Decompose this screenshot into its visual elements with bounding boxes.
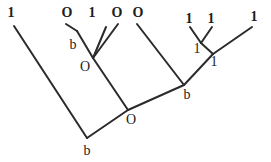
tip-1-label: 1: [8, 6, 15, 20]
node-o-root-child-label: O: [126, 113, 136, 127]
branch-bleft-to-tip2: [66, 24, 77, 31]
tip-8-label: 1: [251, 10, 258, 24]
node-b-root-label: b: [84, 144, 91, 158]
node-o-left-label: O: [80, 60, 90, 74]
tip-3-label: 1: [89, 6, 96, 20]
node-b-right-label: b: [184, 88, 191, 102]
tip-7-label: 1: [208, 12, 215, 26]
branch-oleft-to-bleft: [77, 31, 93, 58]
tree-branches-group: [0, 0, 271, 162]
branch-root-to-o: [87, 110, 128, 138]
tip-2-label: O: [62, 6, 73, 20]
node-1-right-lower-label: 1: [211, 55, 218, 69]
tip-4-label: O: [112, 6, 123, 20]
tip-6-label: 1: [186, 12, 193, 26]
tip-5-label: O: [133, 6, 144, 20]
tree-diagram-canvas: 1O1OO111bO11bOb: [0, 0, 271, 162]
branch-bright-to-node1: [184, 54, 213, 85]
node-1-right-upper-label: 1: [194, 42, 201, 56]
branch-node1-to-tip8: [213, 27, 252, 54]
branch-node1-to-node1upper: [201, 43, 213, 54]
branch-o-to-bright: [128, 85, 184, 110]
node-b-left-label: b: [70, 38, 77, 52]
branch-bright-to-tip5: [137, 24, 184, 85]
branch-o-to-oleft: [93, 58, 128, 110]
branch-node1upper-to-tip7: [201, 27, 212, 43]
